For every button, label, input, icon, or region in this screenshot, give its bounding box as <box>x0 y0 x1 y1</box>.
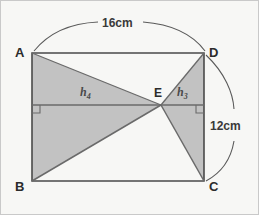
width-arc-right <box>143 22 205 51</box>
height-label-right-subscript: 3 <box>183 92 188 101</box>
point-label-e: E <box>154 86 162 100</box>
height-label-left-subscript: 4 <box>86 92 91 101</box>
geometry-diagram: A D B C E 16cm 12cm h4 h3 <box>1 1 259 215</box>
width-arc-left <box>34 22 98 51</box>
vertex-label-c: C <box>209 179 219 194</box>
vertex-label-d: D <box>209 45 218 60</box>
height-arc-upper <box>206 55 234 109</box>
height-dimension-label: 12cm <box>210 119 241 133</box>
geometry-figure-container: A D B C E 16cm 12cm h4 h3 <box>0 0 259 215</box>
width-dimension-label: 16cm <box>102 16 133 30</box>
vertex-label-b: B <box>15 179 24 194</box>
height-arc-lower <box>206 141 234 181</box>
vertex-label-a: A <box>15 45 25 60</box>
